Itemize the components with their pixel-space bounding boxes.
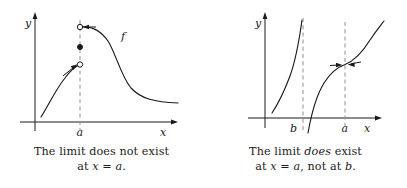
left-caption-line2-pre: at — [77, 160, 92, 173]
curve-label-f: f — [120, 29, 127, 43]
right-caption-line2: at x = a, not at b. — [204, 159, 407, 174]
filled-dot-value-at-a — [78, 45, 83, 50]
right-caption-line1-pre: The limit — [249, 145, 304, 158]
right-caption: The limit does exist at x = a, not at b. — [204, 144, 407, 174]
x-tick-label-a-right: a — [342, 122, 349, 135]
open-circle-lower — [77, 62, 82, 67]
curve-left-branch — [41, 65, 79, 117]
x-tick-label-a-left: a — [77, 126, 84, 139]
curve-right-branch — [81, 27, 178, 103]
y-axis-label-right: y — [254, 17, 262, 30]
y-axis-right — [263, 12, 268, 128]
right-caption-emph-does: does — [304, 145, 331, 158]
right-caption-period: . — [352, 160, 356, 173]
curve-right-branch-right-panel — [308, 21, 384, 133]
left-caption: The limit does not exist at x = a. — [0, 144, 203, 174]
x-axis-label-left: x — [160, 126, 167, 139]
x-tick-label-b: b — [290, 122, 297, 135]
right-caption-line1: The limit does exist — [249, 145, 362, 158]
y-axis-left — [33, 12, 38, 131]
x-axis-left — [20, 120, 178, 125]
open-circle-upper — [77, 24, 82, 29]
right-caption-line1-post: exist — [331, 145, 362, 158]
y-axis-label-left: y — [24, 17, 32, 30]
left-caption-equals: = — [99, 160, 116, 173]
right-pointing-arrow-lower — [63, 64, 78, 76]
right-caption-notat: , not at — [300, 160, 345, 173]
curve-left-branch-right-panel — [272, 20, 302, 113]
right-caption-equals: = — [277, 160, 294, 173]
x-axis-right — [248, 116, 382, 121]
right-caption-line2-pre: at — [255, 160, 270, 173]
right-graph: y x b a — [204, 0, 407, 140]
x-axis-label-right: x — [364, 122, 371, 135]
figure-page: y x a f The limit does not exist at x = … — [0, 0, 407, 188]
left-caption-line1: The limit does not exist — [34, 145, 169, 158]
left-graph: y x a f — [0, 0, 203, 140]
left-figure-panel: y x a f The limit does not exist at x = … — [0, 0, 203, 188]
left-caption-period: . — [122, 160, 126, 173]
right-figure-panel: y x b a The limit does exist at x = a, n… — [204, 0, 407, 188]
left-caption-line2: at x = a. — [0, 159, 203, 174]
